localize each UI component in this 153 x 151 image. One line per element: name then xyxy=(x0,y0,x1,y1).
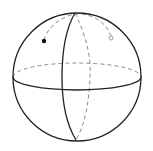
background xyxy=(0,0,153,151)
start-point xyxy=(42,39,46,43)
end-point xyxy=(109,36,113,40)
sphere-diagram xyxy=(0,0,153,151)
